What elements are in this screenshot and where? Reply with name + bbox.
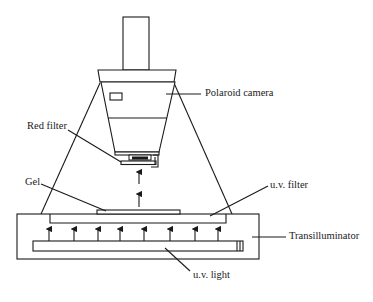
gel-slab [97, 210, 180, 214]
label-uv-filter: u.v. filter [270, 180, 308, 191]
polaroid-camera [98, 17, 176, 160]
transilluminator [17, 210, 259, 259]
camera-window-icon [110, 93, 122, 100]
leader-gel [41, 184, 106, 211]
label-polaroid-camera: Polaroid camera [205, 88, 274, 99]
label-red-filter: Red filter [27, 121, 67, 132]
leader-uv-filter [210, 186, 268, 216]
label-gel: Gel [25, 177, 40, 188]
label-transilluminator: Transilluminator [289, 231, 359, 242]
camera-flange [98, 70, 176, 82]
label-uv-light: u.v. light [193, 270, 230, 281]
diagram-canvas [0, 0, 373, 302]
camera-eyepiece-tube [123, 17, 149, 70]
uv-light-tube [33, 241, 243, 251]
